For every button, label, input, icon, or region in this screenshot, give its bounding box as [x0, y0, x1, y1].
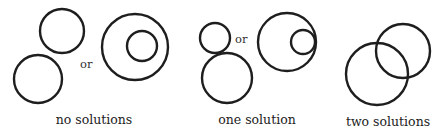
case-separate-circles	[14, 9, 84, 103]
group-two-solutions: two solutions	[346, 24, 430, 129]
group-one-solution: or one solution	[200, 13, 316, 127]
case-nested-circles	[102, 14, 168, 80]
case-internally-tangent	[258, 13, 316, 71]
circle	[202, 53, 252, 103]
label-no-solutions: no solutions	[56, 112, 133, 127]
circle	[127, 31, 157, 61]
circle	[40, 9, 84, 53]
or-connector: or	[235, 32, 248, 46]
group-no-solutions: or no solutions	[14, 9, 168, 127]
circle	[258, 13, 316, 71]
circle	[291, 30, 315, 54]
circle	[200, 23, 230, 53]
circle	[14, 55, 62, 103]
or-connector: or	[80, 57, 93, 71]
label-two-solutions: two solutions	[346, 114, 430, 129]
case-intersecting	[346, 24, 430, 105]
circle	[376, 24, 430, 78]
label-one-solution: one solution	[218, 112, 296, 127]
circle-solutions-diagram: or no solutions or one solution two solu…	[0, 0, 434, 132]
